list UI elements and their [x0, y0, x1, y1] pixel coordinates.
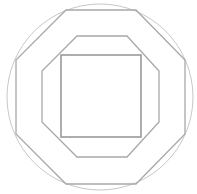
- inner-square: [61, 55, 141, 137]
- outer-circle: [7, 4, 193, 190]
- diagram-canvas: [0, 0, 197, 194]
- nested-shapes-figure: [0, 0, 197, 194]
